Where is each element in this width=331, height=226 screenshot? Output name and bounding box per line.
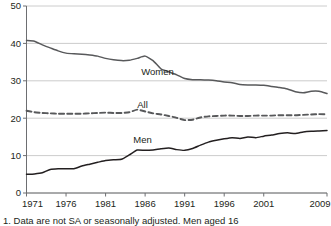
series-label-all: All: [137, 99, 148, 110]
series-label-women: Women: [141, 66, 174, 77]
series-line-women: [27, 40, 328, 93]
x-tick-label: 1981: [95, 198, 116, 209]
y-axis: 01020304050: [10, 0, 26, 198]
series-label-men: Men: [133, 134, 151, 145]
x-tick-label: 1971: [22, 198, 43, 209]
y-tick-label: 40: [10, 38, 21, 49]
y-tick-label: 50: [10, 0, 21, 11]
caption-label: 1. Data are not SA or seasonally adjuste…: [3, 215, 239, 226]
data-series: [27, 40, 328, 174]
x-tick-label: 1976: [55, 198, 76, 209]
x-tick-label: 1986: [135, 198, 156, 209]
series-labels: WomenAllMen: [133, 66, 173, 145]
chart-caption: 1. Data are not SA or seasonally adjuste…: [3, 215, 239, 226]
x-tick-label: 2001: [253, 198, 274, 209]
y-tick-label: 0: [16, 187, 21, 198]
x-axis: 19711976198119861991199620012009: [22, 193, 331, 209]
line-chart: 01020304050 1971197619811986199119962001…: [0, 0, 331, 226]
gridlines: [27, 6, 328, 193]
series-line-men: [27, 131, 328, 175]
y-tick-label: 20: [10, 113, 21, 124]
y-tick-label: 10: [10, 150, 21, 161]
x-tick-label: 2009: [309, 198, 330, 209]
x-tick-label: 1991: [174, 198, 195, 209]
x-tick-label: 1996: [214, 198, 235, 209]
y-tick-label: 30: [10, 75, 21, 86]
chart-container: 01020304050 1971197619811986199119962001…: [0, 0, 331, 226]
